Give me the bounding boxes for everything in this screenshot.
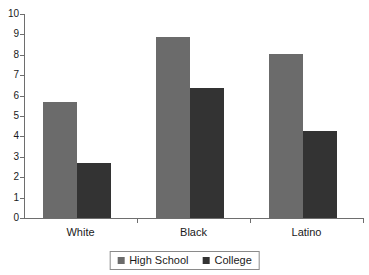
y-axis-tick-mark bbox=[20, 157, 24, 158]
bar-chart: 012345678910 WhiteBlackLatino High Schoo… bbox=[0, 0, 369, 275]
bar-latino-high-school bbox=[269, 54, 303, 218]
bar-white-college bbox=[77, 163, 111, 218]
y-axis-tick-mark bbox=[20, 198, 24, 199]
bar-white-high-school bbox=[43, 102, 77, 218]
y-axis-tick-mark bbox=[20, 136, 24, 137]
category-label-latino: Latino bbox=[292, 227, 322, 238]
legend-swatch-icon bbox=[117, 257, 124, 264]
y-axis-tick-mark bbox=[20, 14, 24, 15]
y-axis-tick-label: 10 bbox=[8, 9, 19, 19]
y-axis-tick-mark bbox=[20, 96, 24, 97]
x-axis-tick-mark bbox=[250, 218, 251, 223]
y-axis-tick-mark bbox=[20, 218, 24, 219]
y-axis-tick-mark bbox=[20, 177, 24, 178]
legend-label: High School bbox=[129, 255, 188, 266]
y-axis-tick-label: 7 bbox=[13, 70, 19, 80]
legend-swatch-icon bbox=[203, 257, 210, 264]
y-axis-tick-label: 0 bbox=[13, 213, 19, 223]
x-axis-line bbox=[24, 218, 363, 219]
bar-black-high-school bbox=[156, 37, 190, 218]
bar-latino-college bbox=[303, 131, 337, 218]
y-axis-tick-mark bbox=[20, 116, 24, 117]
legend-label: College bbox=[215, 255, 252, 266]
legend-entry-college: College bbox=[203, 255, 252, 266]
y-axis-tick-label: 2 bbox=[13, 172, 19, 182]
plot-area: 012345678910 bbox=[24, 14, 363, 218]
y-axis-tick-label: 3 bbox=[13, 152, 19, 162]
y-axis-tick-label: 5 bbox=[13, 111, 19, 121]
y-axis-tick-label: 4 bbox=[13, 131, 19, 141]
bar-black-college bbox=[190, 88, 224, 218]
y-axis-tick-label: 6 bbox=[13, 91, 19, 101]
y-axis-tick-label: 1 bbox=[13, 193, 19, 203]
x-axis-tick-mark bbox=[137, 218, 138, 223]
category-label-white: White bbox=[66, 227, 94, 238]
legend-entry-high-school: High School bbox=[117, 255, 188, 266]
y-axis-tick-mark bbox=[20, 34, 24, 35]
category-label-black: Black bbox=[180, 227, 207, 238]
y-axis-tick-label: 9 bbox=[13, 29, 19, 39]
y-axis-line bbox=[24, 14, 25, 218]
y-axis-tick-label: 8 bbox=[13, 50, 19, 60]
chart-legend: High SchoolCollege bbox=[109, 251, 260, 270]
y-axis-tick-mark bbox=[20, 75, 24, 76]
y-axis-tick-mark bbox=[20, 55, 24, 56]
x-axis-tick-mark bbox=[363, 218, 364, 223]
